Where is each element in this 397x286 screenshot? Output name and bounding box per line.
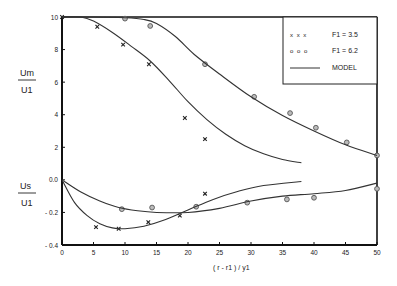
legend-marker-x: x x x xyxy=(290,32,307,38)
chart: 051015202530354045501086420.0- 0.2- 0.4 … xyxy=(0,0,397,286)
circle-point xyxy=(150,205,155,210)
x-tick-label: 5 xyxy=(92,249,96,256)
y-tick-label: - 0.2 xyxy=(45,209,58,216)
circle-point xyxy=(375,186,380,191)
cross-point xyxy=(94,225,98,229)
y-tick-label: - 0.4 xyxy=(45,242,58,249)
y-label-top: Um U1 xyxy=(18,68,36,95)
legend: x x x F1 = 3.5 o o o F1 = 6.2 MODEL xyxy=(283,17,377,84)
circle-point xyxy=(285,197,290,202)
x-tick-label: 30 xyxy=(247,249,255,256)
circle-point xyxy=(313,125,318,130)
model-curve xyxy=(62,180,301,229)
y-label-top-den: U1 xyxy=(21,85,33,95)
circle-point xyxy=(288,111,293,116)
series-6 xyxy=(62,180,301,229)
x-tick-label: 40 xyxy=(310,249,318,256)
circle-point xyxy=(344,140,349,145)
series-5 xyxy=(119,186,379,211)
cross-point xyxy=(147,220,151,224)
x-tick-label: 50 xyxy=(373,249,381,256)
x-tick-label: 20 xyxy=(184,249,192,256)
y-tick-label: 6 xyxy=(54,79,58,86)
y-label-bottom: Us U1 xyxy=(18,181,36,208)
y-tick-label: 0.0 xyxy=(49,176,58,183)
cross-point xyxy=(147,62,151,66)
x-tick-label: 0 xyxy=(60,249,64,256)
y-tick-label: 10 xyxy=(51,14,59,21)
series-2 xyxy=(62,17,301,163)
circle-point xyxy=(312,195,317,200)
y-label-top-num: Um xyxy=(20,68,34,78)
x-tick-label: 15 xyxy=(153,249,161,256)
circle-point xyxy=(148,24,153,29)
series-7 xyxy=(62,180,377,213)
y-label-bottom-den: U1 xyxy=(21,198,33,208)
x-tick-label: 10 xyxy=(121,249,129,256)
y-tick-label: 8 xyxy=(54,46,58,53)
x-tick-label: 25 xyxy=(216,249,224,256)
y-tick-label: 2 xyxy=(54,144,58,151)
series-0 xyxy=(60,15,207,141)
x-axis-label: ( r - r1 ) / y1 xyxy=(213,264,250,272)
model-curve xyxy=(62,17,301,163)
cross-point xyxy=(183,116,187,120)
x-tick-label: 45 xyxy=(342,249,350,256)
legend-label-f35: F1 = 3.5 xyxy=(332,31,358,38)
legend-marker-o: o o o xyxy=(290,48,308,54)
y-tick-label: 4 xyxy=(54,111,58,118)
cross-point xyxy=(121,43,125,47)
legend-label-f62: F1 = 6.2 xyxy=(332,47,358,54)
cross-point xyxy=(203,192,207,196)
legend-label-model: MODEL xyxy=(332,64,357,71)
x-tick-label: 35 xyxy=(279,249,287,256)
cross-point xyxy=(203,137,207,141)
cross-point xyxy=(95,25,99,29)
circle-point xyxy=(123,16,128,21)
y-label-bottom-num: Us xyxy=(20,181,31,191)
model-curve xyxy=(62,180,377,213)
